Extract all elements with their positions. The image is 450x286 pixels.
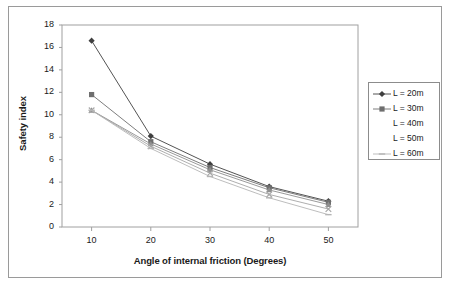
legend-item: L = 60m (369, 146, 439, 161)
x-axis-title: Angle of internal friction (Degrees) (62, 255, 358, 266)
x-tick-label: 20 (136, 235, 166, 245)
legend-label: L = 60m (393, 149, 424, 158)
data-point-marker-diamond (379, 90, 385, 96)
legend-label: L = 50m (393, 134, 424, 143)
y-tick-label: 2 (28, 199, 54, 209)
x-tick-label: 10 (77, 235, 107, 245)
x-tick-label: 40 (254, 235, 284, 245)
y-tick-label: 10 (28, 109, 54, 119)
legend-label: L = 30m (393, 104, 424, 113)
y-tick-label: 16 (28, 41, 54, 51)
axes (62, 25, 358, 227)
legend-marker-diamond-icon (371, 87, 393, 101)
y-tick-label: 18 (28, 19, 54, 29)
x-tick-label: 30 (195, 235, 225, 245)
legend-marker-triangle-icon (371, 117, 393, 131)
y-tick-label: 8 (28, 131, 54, 141)
legend-item: L = 30m (369, 101, 439, 116)
legend-label: L = 40m (393, 119, 424, 128)
legend-item: L = 20m (369, 86, 439, 101)
data-point-marker-square (89, 92, 94, 97)
legend-marker-square-icon (371, 102, 393, 116)
chart-figure: Safety index Angle of internal friction … (0, 0, 450, 286)
y-axis-title: Safety index (17, 74, 28, 174)
legend-label: L = 20m (393, 89, 424, 98)
y-tick-label: 6 (28, 154, 54, 164)
x-tick-label: 50 (313, 235, 343, 245)
y-tick-label: 4 (28, 176, 54, 186)
chart-legend: L = 20mL = 30mL = 40mL = 50mL = 60m (368, 82, 440, 160)
data-point-marker-square (379, 106, 384, 111)
legend-marker-cross-icon (371, 132, 393, 146)
y-tick-label: 0 (28, 221, 54, 231)
legend-item: L = 40m (369, 116, 439, 131)
y-tick-label: 14 (28, 64, 54, 74)
legend-marker-dash-icon (371, 147, 393, 161)
y-tick-label: 12 (28, 86, 54, 96)
legend-item: L = 50m (369, 131, 439, 146)
